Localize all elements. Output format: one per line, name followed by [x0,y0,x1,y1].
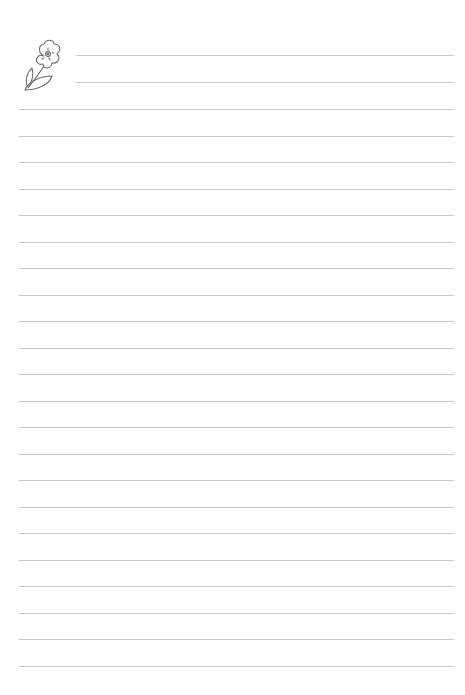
rule-line [19,189,454,190]
header-rule-line [76,82,454,83]
rule-line [19,136,454,137]
rule-line [19,295,454,296]
rule-line [19,321,454,322]
rule-line [19,613,454,614]
rule-line [19,215,454,216]
lined-paper-page [0,0,465,695]
rule-line [19,454,454,455]
rule-line [19,242,454,243]
rule-line [19,427,454,428]
rule-line [19,639,454,640]
rule-line [19,109,454,110]
rule-line [19,401,454,402]
rule-line [19,374,454,375]
rule-line [19,586,454,587]
flower-icon [22,36,66,96]
rule-line [19,560,454,561]
rule-line [19,533,454,534]
rule-line [19,268,454,269]
rule-line [19,480,454,481]
rule-line [19,348,454,349]
rule-line [19,507,454,508]
rule-line [19,162,454,163]
header-rule-line [76,55,454,56]
rule-line [19,666,454,667]
